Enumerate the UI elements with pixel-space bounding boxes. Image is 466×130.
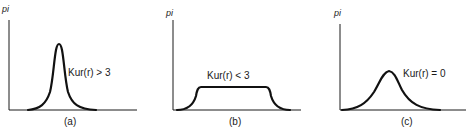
panel-a-y-label: pi (2, 4, 9, 14)
panel-c-y-label: pi (334, 8, 341, 18)
panel-b-y-label: pi (166, 8, 173, 18)
panel-a-annotation: Kur(r) > 3 (68, 67, 111, 78)
panel-b-caption: (b) (229, 116, 241, 127)
panel-c-caption: (c) (401, 116, 413, 127)
panel-b-annotation: Kur(r) < 3 (207, 70, 250, 81)
panel-b (173, 20, 301, 110)
panel-b-curve (177, 87, 290, 110)
panel-a (9, 20, 137, 110)
panel-c-annotation: Kur(r) = 0 (403, 68, 446, 79)
panel-a-caption: (a) (64, 116, 76, 127)
kurtosis-diagram (0, 0, 466, 130)
panel-c (340, 24, 466, 110)
